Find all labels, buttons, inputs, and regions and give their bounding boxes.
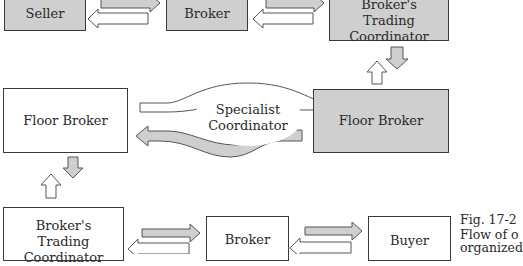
floor-broker-left-label: Floor Broker <box>23 113 108 129</box>
arrow-floor-broker-down <box>63 157 83 178</box>
arrow-floor-broker-up <box>367 61 387 84</box>
broker-top-box: Broker <box>166 0 248 31</box>
broker-bottom-box: Broker <box>206 216 289 261</box>
arrow-coordinator-up <box>41 174 61 198</box>
arrow-coordinator-to-broker-bottom <box>142 224 200 242</box>
arrow-buyer-to-broker <box>290 238 351 254</box>
floor-broker-right-box: Floor Broker <box>313 89 449 153</box>
caption-line-1: Fig. 17-2 <box>460 212 523 227</box>
seller-label: Seller <box>26 6 65 22</box>
trading-coordinator-bottom-label: Broker's Trading Coordinator <box>4 218 123 266</box>
floor-broker-right-label: Floor Broker <box>339 113 424 129</box>
caption-line-3: organized <box>460 240 523 255</box>
arrow-broker-to-seller <box>88 9 148 28</box>
broker-top-label: Broker <box>184 6 229 22</box>
floor-broker-left-box: Floor Broker <box>3 88 128 153</box>
arrow-broker-to-coordinator <box>266 0 324 12</box>
broker-bottom-label: Broker <box>225 232 270 248</box>
arrow-broker-to-buyer <box>305 222 362 240</box>
arrow-coordinator-down <box>386 47 408 69</box>
figure-caption: Fig. 17-2 Flow of o organized <box>460 212 523 255</box>
seller-box: Seller <box>4 0 86 31</box>
trading-coordinator-top-label: Broker's Trading Coordinator <box>330 0 448 45</box>
arrow-broker-to-coordinator-bottom <box>128 239 189 254</box>
specialist-coordinator: Specialist Coordinator <box>196 98 300 138</box>
specialist-coordinator-label: Specialist Coordinator <box>208 102 288 134</box>
arrow-coordinator-to-broker <box>253 9 313 28</box>
trading-coordinator-bottom-box: Broker's Trading Coordinator <box>3 207 124 261</box>
buyer-label: Buyer <box>390 233 429 249</box>
trading-coordinator-top-box: Broker's Trading Coordinator <box>329 0 449 41</box>
buyer-box: Buyer <box>368 216 451 261</box>
arrow-seller-to-broker <box>101 0 160 12</box>
